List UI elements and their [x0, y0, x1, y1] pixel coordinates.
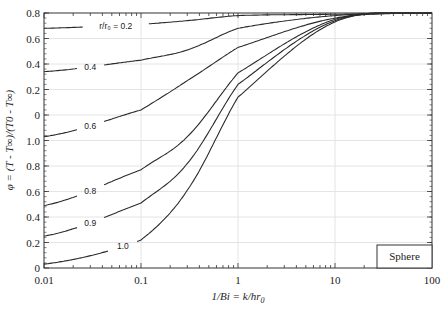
y-tick-label: 1.0 [26, 135, 40, 147]
grid-lines [44, 13, 432, 268]
y-tick-label: 0.4 [26, 58, 40, 70]
legend-box: Sphere [377, 245, 432, 268]
x-tick-label: 100 [424, 274, 441, 286]
curve-label: 0.9 [84, 218, 96, 228]
y-axis-title: φ = (T - T∞)/(T0 - T∞) [3, 89, 16, 190]
curve-label: r/r₀ = 0.2 [99, 21, 132, 31]
curve-label: 1.0 [117, 241, 129, 251]
y-tick-label: 0.8 [26, 160, 40, 172]
x-tick-label: 0.01 [34, 274, 53, 286]
y-tick-label: 0.2 [26, 84, 40, 96]
x-tick-label: 10 [330, 274, 342, 286]
y-tick-label: 0.6 [26, 33, 40, 45]
legend-label: Sphere [389, 250, 420, 262]
curve-label: 0.8 [84, 186, 96, 196]
y-tick-label: 0.2 [26, 237, 40, 249]
chart: r/r₀ = 0.20.40.60.80.91.0 0.010.1110100 … [0, 0, 448, 313]
y-tick-label: 0.4 [26, 211, 40, 223]
y-tick-label: 0.6 [26, 186, 40, 198]
y-tick-label: 0 [35, 262, 41, 274]
x-tick-label: 1 [235, 274, 241, 286]
x-tick-labels: 0.010.1110100 [34, 274, 440, 286]
y-tick-labels: 0.80.60.40.201.00.80.60.40.20 [26, 7, 40, 274]
x-axis-title: 1/Bi = k/hr0 [212, 290, 265, 305]
y-tick-label: 0.8 [26, 7, 40, 19]
curve-label: 0.6 [84, 121, 96, 131]
curve-label: 0.4 [84, 62, 96, 72]
y-tick-label: 0 [35, 109, 41, 121]
x-tick-label: 0.1 [134, 274, 148, 286]
